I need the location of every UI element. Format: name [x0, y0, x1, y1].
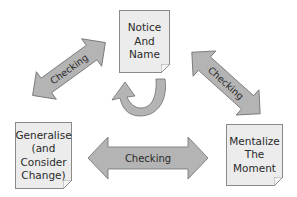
node-label-line: Moment [229, 162, 280, 176]
edge-label: Checking [125, 153, 171, 164]
double-arrow-left-diagonal: Checking [23, 29, 116, 109]
node-label-line: Consider [15, 156, 71, 170]
curved-arrow-self-loop [112, 79, 166, 116]
node-label-line: Mentalize [229, 135, 280, 149]
double-arrow-right-diagonal: Checking [180, 40, 271, 127]
node-label-line: Change) [15, 169, 71, 183]
diagram-canvas: Checking Checking Checking Notice And Na… [0, 0, 297, 197]
node-label-line: Notice [128, 21, 162, 35]
node-label-line: Generalise [15, 129, 71, 143]
node-label-line: The [229, 148, 280, 162]
node-notice-and-name: Notice And Name [119, 10, 170, 73]
node-mentalize-the-moment: Mentalize The Moment [226, 124, 283, 186]
double-arrow-horizontal: Checking [88, 137, 208, 179]
node-label-line: And [128, 35, 162, 49]
node-generalise: Generalise (and Consider Change) [15, 122, 72, 189]
node-label-line: (and [15, 142, 71, 156]
node-label-line: Name [128, 48, 162, 62]
